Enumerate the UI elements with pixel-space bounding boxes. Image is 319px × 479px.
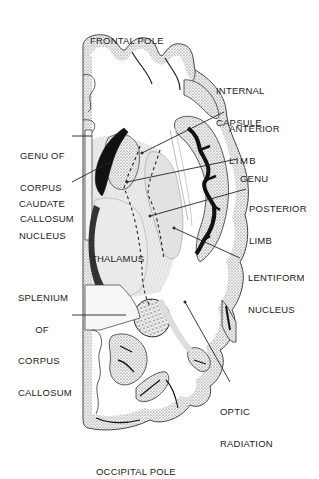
label-optic-radiation: OPTIC RADIATION bbox=[220, 386, 273, 470]
label-frontal-pole: FRONTAL POLE bbox=[90, 15, 164, 68]
label-lentiform-nucleus: LENTIFORM NUCLEUS bbox=[248, 252, 305, 336]
label-thalamus: THALAMUS bbox=[91, 233, 144, 286]
label-caudate-nucleus: CAUDATE NUCLEUS bbox=[19, 178, 66, 262]
label-splenium-of-corpus-callosum: SPLENIUM OF CORPUS CALLOSUM bbox=[18, 272, 66, 419]
label-occipital-pole: OCCIPITAL POLE bbox=[96, 446, 176, 479]
